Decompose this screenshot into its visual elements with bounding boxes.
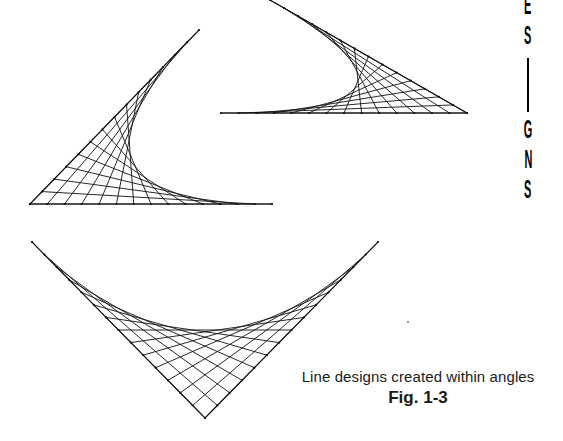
scan-speck [407, 321, 409, 323]
string-line [54, 179, 237, 204]
arm-point [150, 79, 152, 81]
arm-point [56, 266, 58, 268]
arm-point [353, 47, 355, 49]
arm-point [297, 15, 299, 17]
figure-caption: Line designs created within angles Fig. … [288, 367, 548, 409]
arm-point [339, 39, 341, 41]
arm-point [125, 103, 127, 105]
arm-point [142, 354, 144, 356]
arm-point [179, 392, 181, 394]
arm-point [138, 91, 140, 93]
arm-point [130, 341, 132, 343]
arm-point [271, 203, 273, 205]
arm-point [68, 279, 70, 281]
arm-point [377, 241, 379, 243]
arm-point [77, 153, 79, 155]
side-letter: S [524, 178, 531, 208]
arm-point [29, 203, 31, 205]
arm-point [466, 112, 468, 114]
arm-point [105, 316, 107, 318]
arm-point [162, 66, 164, 68]
arm-point [198, 29, 200, 31]
arm-point [93, 304, 95, 306]
arm-point [89, 141, 91, 143]
arm-point [113, 116, 115, 118]
arm-point [381, 63, 383, 65]
arm-point [117, 329, 119, 331]
arm-point [43, 253, 45, 255]
arm-point [186, 41, 188, 43]
caption-text: Line designs created within angles [288, 367, 548, 387]
side-letter: S [524, 24, 531, 54]
arm-point [31, 241, 33, 243]
arm-point [204, 417, 206, 419]
arm-point [53, 178, 55, 180]
arm-point [283, 7, 285, 9]
arm-point [438, 96, 440, 98]
left-angle-design [29, 29, 273, 205]
arm-point [396, 72, 398, 74]
arm-point [101, 128, 103, 130]
side-margin-text: ESGNS [513, 0, 543, 254]
arm-point [41, 190, 43, 192]
arm-point [154, 367, 156, 369]
string-line [42, 192, 255, 204]
arm-point [167, 379, 169, 381]
string-line [239, 105, 453, 113]
arm-point [220, 112, 222, 114]
arm-point [325, 31, 327, 33]
top-right-angle-design [220, 0, 468, 114]
figure-label: Fig. 1-3 [288, 387, 548, 409]
arm-point [311, 23, 313, 25]
arm-point [452, 104, 454, 106]
arm-point [410, 80, 412, 82]
arm-point [192, 404, 194, 406]
arm-point [367, 55, 369, 57]
string-line [102, 129, 168, 204]
arm-point [65, 166, 67, 168]
arm-point [174, 54, 176, 56]
arm-point [424, 88, 426, 90]
side-dash [527, 58, 529, 112]
arm-point [80, 291, 82, 293]
